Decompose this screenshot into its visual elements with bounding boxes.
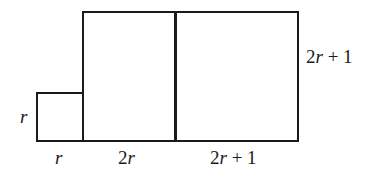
label-small-bottom: r: [55, 148, 62, 167]
small-square: [36, 92, 85, 142]
large-rectangle: [82, 11, 299, 142]
divider-line: [174, 11, 177, 142]
label-middle-bottom: 2r: [118, 148, 135, 167]
label-small-side: r: [20, 107, 27, 126]
label-right-bottom: 2r + 1: [210, 148, 257, 167]
area-diagram: r r 2r 2r + 1 2r + 1: [0, 0, 380, 173]
label-right-side: 2r + 1: [306, 47, 353, 66]
